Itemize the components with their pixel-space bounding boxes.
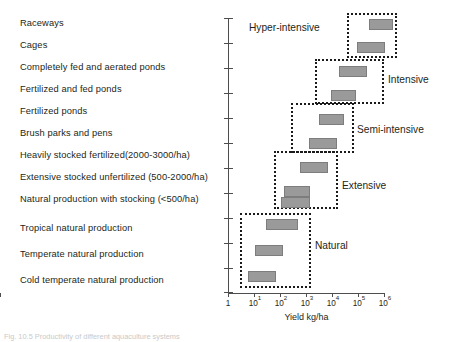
ticklabel-base-0: 1 <box>226 299 231 308</box>
group-label-hyper-intensive: Hyper-intensive <box>249 22 320 34</box>
group-label-intensive: Intensive <box>388 74 429 86</box>
y-axis-tick-2 <box>224 68 233 69</box>
y-axis-tick-6 <box>224 168 233 169</box>
bar-extensive-stocked-unfertilized <box>284 186 310 197</box>
productivity-chart-figure: Raceways Cages Completely fed and aerate… <box>0 0 459 342</box>
bar-raceways <box>369 19 393 30</box>
ticklabel-base-6: 10 <box>379 299 388 308</box>
y-axis-tick-8 <box>224 218 233 219</box>
bar-completely-fed-aerated-ponds <box>339 66 367 77</box>
ticklabel-base-4: 10 <box>327 299 336 308</box>
x-axis-tick-10 <box>254 293 255 297</box>
category-label-cages: Cages <box>20 40 47 51</box>
y-axis-line <box>228 18 229 293</box>
ticklabel-base-2: 10 <box>275 299 284 308</box>
x-axis-tick-1 <box>228 293 229 297</box>
x-axis-tick-100000 <box>358 293 359 297</box>
group-label-extensive: Extensive <box>342 180 386 192</box>
bar-brush-parks-and-pens <box>309 138 337 149</box>
bar-cages <box>357 42 385 53</box>
ticklabel-exp-5: 5 <box>362 294 365 301</box>
x-axis-ticklabel-1000000: 106 <box>379 299 392 309</box>
category-label-heavily-stocked-fertilized: Heavily stocked fertilized(2000-3000/ha) <box>20 150 190 161</box>
bar-natural-production-with-stocking <box>281 197 310 208</box>
ticklabel-base-5: 10 <box>353 299 362 308</box>
x-axis-ticklabel-1: 1 <box>226 299 231 309</box>
x-axis-ticklabel-100000: 105 <box>353 299 366 309</box>
x-axis-tick-10000 <box>332 293 333 297</box>
x-axis-ticklabel-100: 102 <box>275 299 288 309</box>
y-axis-tick-3 <box>224 93 233 94</box>
ticklabel-exp-3: 3 <box>310 294 313 301</box>
x-axis-ticklabel-10000: 104 <box>327 299 340 309</box>
y-axis-tick-1 <box>224 43 233 44</box>
category-label-brush-parks-and-pens: Brush parks and pens <box>20 128 112 139</box>
category-label-fertilized-ponds: Fertilized ponds <box>20 106 87 117</box>
y-axis-tick-4 <box>224 118 233 119</box>
category-label-temperate-natural-production: Temperate natural production <box>20 249 144 260</box>
group-label-natural: Natural <box>315 240 348 252</box>
y-axis-tick-0 <box>224 18 233 19</box>
category-label-cold-temperate-natural-production: Cold temperate natural production <box>20 275 164 286</box>
bar-cold-temperate-natural-production <box>248 271 276 282</box>
bar-heavily-stocked-fertilized <box>300 162 328 173</box>
category-label-completely-fed-aerated-ponds: Completely fed and aerated ponds <box>20 62 165 73</box>
category-label-raceways: Raceways <box>20 18 64 29</box>
ticklabel-exp-6: 6 <box>388 294 391 301</box>
ticklabel-base-1: 10 <box>249 299 258 308</box>
category-label-extensive-stocked-unfertilized: Extensive stocked unfertilized (500-2000… <box>20 172 208 183</box>
x-axis-ticklabel-10: 101 <box>249 299 262 309</box>
ticklabel-base-3: 10 <box>301 299 310 308</box>
bar-tropical-natural-production <box>266 219 298 230</box>
ticklabel-exp-1: 1 <box>258 294 261 301</box>
ticklabel-exp-4: 4 <box>336 294 339 301</box>
group-label-semi-intensive: Semi-intensive <box>357 124 424 136</box>
y-axis-tick-10 <box>224 268 233 269</box>
bar-fertilized-and-fed-ponds <box>331 90 356 101</box>
ticklabel-exp-2: 2 <box>284 294 287 301</box>
y-axis-tick-7 <box>224 193 233 194</box>
x-axis-tick-1000000 <box>384 293 385 297</box>
y-axis-tick-9 <box>224 243 233 244</box>
x-axis-tick-1000 <box>306 293 307 297</box>
x-axis-title: Yield kg/ha <box>228 312 385 322</box>
bar-temperate-natural-production <box>255 245 283 256</box>
figure-caption: Fig. 10.5 Productivity of different aqua… <box>4 333 180 341</box>
y-axis-tick-5 <box>224 143 233 144</box>
category-label-fertilized-and-fed-ponds: Fertilized and fed ponds <box>20 84 122 95</box>
bar-fertilized-ponds <box>319 114 344 125</box>
category-label-natural-production-with-stocking: Natural production with stocking (<500/h… <box>20 194 199 205</box>
x-axis-ticklabel-1000: 103 <box>301 299 314 309</box>
x-axis-tick-100 <box>280 293 281 297</box>
category-label-tropical-natural-production: Tropical natural production <box>20 223 132 234</box>
